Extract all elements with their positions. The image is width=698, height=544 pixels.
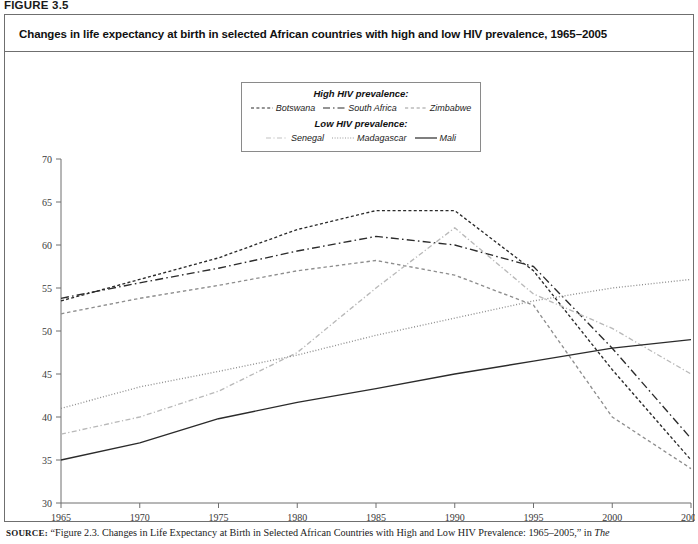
series-line-south-africa [61, 236, 691, 438]
y-axis-tick-label: 50 [42, 326, 52, 337]
x-axis-tick-label: 1980 [287, 512, 307, 523]
y-axis-tick-label: 45 [42, 369, 52, 380]
y-axis-tick-label: 40 [42, 412, 52, 423]
y-axis-tick-label: 30 [42, 498, 52, 509]
source-text: “Figure 2.3. Changes in Life Expectancy … [48, 527, 594, 538]
figure-number-label: FIGURE 3.5 [4, 0, 69, 12]
figure-container: Changes in life expectancy at birth in s… [4, 14, 694, 522]
line-chart-svg: 3035404550556065701965197019751980198519… [5, 15, 695, 523]
y-axis-tick-label: 35 [42, 455, 52, 466]
figure-page: FIGURE 3.5 Changes in life expectancy at… [0, 0, 698, 544]
y-axis-tick-label: 70 [42, 154, 52, 165]
y-axis-tick-label: 65 [42, 197, 52, 208]
chart-plot-area: 3035404550556065701965197019751980198519… [5, 15, 695, 523]
x-axis-tick-label: 1965 [51, 512, 71, 523]
x-axis-tick-label: 1990 [445, 512, 465, 523]
x-axis-tick-label: 2000 [602, 512, 622, 523]
x-axis-tick-label: 1985 [366, 512, 386, 523]
source-italic-tail: The [594, 527, 609, 538]
series-line-botswana [61, 211, 691, 460]
source-prefix: SOURCE: [6, 528, 48, 538]
source-note: SOURCE: “Figure 2.3. Changes in Life Exp… [6, 526, 692, 540]
x-axis-tick-label: 2005 [681, 512, 695, 523]
y-axis-tick-label: 55 [42, 283, 52, 294]
x-axis-tick-label: 1970 [130, 512, 150, 523]
y-axis-tick-label: 60 [42, 240, 52, 251]
x-axis-tick-label: 1995 [524, 512, 544, 523]
x-axis-tick-label: 1975 [209, 512, 229, 523]
series-line-mali [61, 340, 691, 460]
